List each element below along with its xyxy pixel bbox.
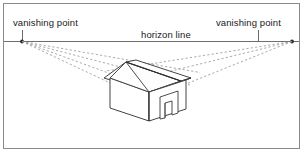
vanishing-point-right-label: vanishing point — [216, 17, 281, 28]
perspective-diagram: vanishing point vanishing point horizon … — [0, 0, 306, 155]
horizon-line-label: horizon line — [141, 29, 191, 40]
vanishing-point-left-label: vanishing point — [13, 17, 78, 28]
